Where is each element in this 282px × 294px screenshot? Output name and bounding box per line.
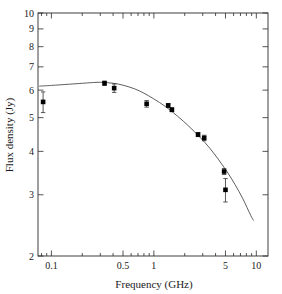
data-point-marker: [41, 100, 46, 105]
data-point-marker: [202, 136, 207, 141]
chart-background: [0, 0, 282, 294]
x-tick-label: 0.1: [45, 260, 58, 271]
y-tick-label: 5: [29, 112, 34, 123]
y-tick-label: 9: [29, 23, 34, 34]
x-tick-label: 10: [251, 260, 261, 271]
y-axis-title: Flux density (Jy): [3, 97, 16, 172]
figure-container: 0.10.51510 2345678910 Frequency (GHz) Fl…: [0, 0, 282, 294]
y-tick-label: 3: [29, 189, 34, 200]
data-point-marker: [196, 132, 201, 137]
data-point-marker: [170, 107, 175, 112]
x-axis-title: Frequency (GHz): [115, 278, 193, 291]
data-point-marker: [223, 188, 228, 193]
y-tick-label: 7: [29, 61, 34, 72]
data-point-marker: [102, 81, 107, 86]
y-tick-label: 4: [29, 146, 34, 157]
x-tick-label: 5: [223, 260, 228, 271]
data-point-marker: [144, 102, 149, 107]
y-tick-label: 2: [29, 251, 34, 262]
data-point-marker: [222, 169, 227, 174]
x-tick-label: 0.5: [117, 260, 130, 271]
flux-density-spectrum-chart: 0.10.51510 2345678910 Frequency (GHz) Fl…: [0, 0, 282, 294]
y-tick-label: 6: [29, 85, 34, 96]
data-point-marker: [112, 86, 117, 91]
y-tick-label: 8: [29, 41, 34, 52]
x-tick-label: 1: [151, 260, 156, 271]
y-tick-label: 10: [24, 8, 34, 19]
data-point-marker: [166, 103, 171, 108]
